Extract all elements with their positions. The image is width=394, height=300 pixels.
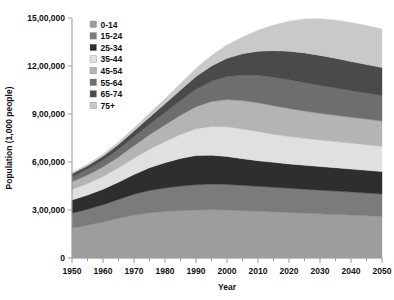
- x-tick-label: 1960: [94, 266, 113, 276]
- legend-swatch-75plus: [90, 102, 97, 109]
- x-tick-label: 2020: [280, 266, 299, 276]
- legend-swatch-35-44: [90, 56, 97, 63]
- legend-label-65-74: 65-74: [101, 89, 123, 99]
- legend-label-0-14: 0-14: [101, 20, 118, 30]
- x-axis-title: Year: [218, 282, 237, 292]
- legend-swatch-25-34: [90, 44, 97, 51]
- x-tick-label: 1950: [63, 266, 82, 276]
- chart-canvas: 03,00,0006,00,0009,00,00012,00,00015,00,…: [0, 0, 394, 300]
- x-tick-label: 2050: [373, 266, 392, 276]
- y-tick-label: 6,00,000: [32, 157, 65, 167]
- x-tick-label: 2040: [342, 266, 361, 276]
- legend-label-35-44: 35-44: [101, 54, 123, 64]
- x-tick-label: 1970: [125, 266, 144, 276]
- x-tick-label: 1990: [187, 266, 206, 276]
- legend-swatch-55-64: [90, 79, 97, 86]
- legend-label-15-24: 15-24: [101, 31, 123, 41]
- y-tick-label: 9,00,000: [32, 109, 65, 119]
- y-tick-label: 12,00,000: [27, 61, 65, 71]
- y-tick-label: 15,00,000: [27, 13, 65, 23]
- legend-label-25-34: 25-34: [101, 43, 123, 53]
- legend-swatch-15-24: [90, 33, 97, 40]
- y-tick-label: 0: [60, 253, 65, 263]
- x-tick-label: 2000: [218, 266, 237, 276]
- stacked-area-chart: 03,00,0006,00,0009,00,00012,00,00015,00,…: [0, 0, 394, 300]
- y-tick-label: 3,00,000: [32, 205, 65, 215]
- x-tick-label: 2030: [311, 266, 330, 276]
- x-tick-label: 1980: [156, 266, 175, 276]
- legend-label-55-64: 55-64: [101, 78, 123, 88]
- y-axis-title: Population (1,000 people): [4, 86, 14, 189]
- legend-swatch-0-14: [90, 21, 97, 28]
- legend-swatch-65-74: [90, 91, 97, 98]
- legend-swatch-45-54: [90, 67, 97, 74]
- legend-label-45-54: 45-54: [101, 66, 123, 76]
- x-tick-label: 2010: [249, 266, 268, 276]
- legend-label-75plus: 75+: [101, 101, 115, 111]
